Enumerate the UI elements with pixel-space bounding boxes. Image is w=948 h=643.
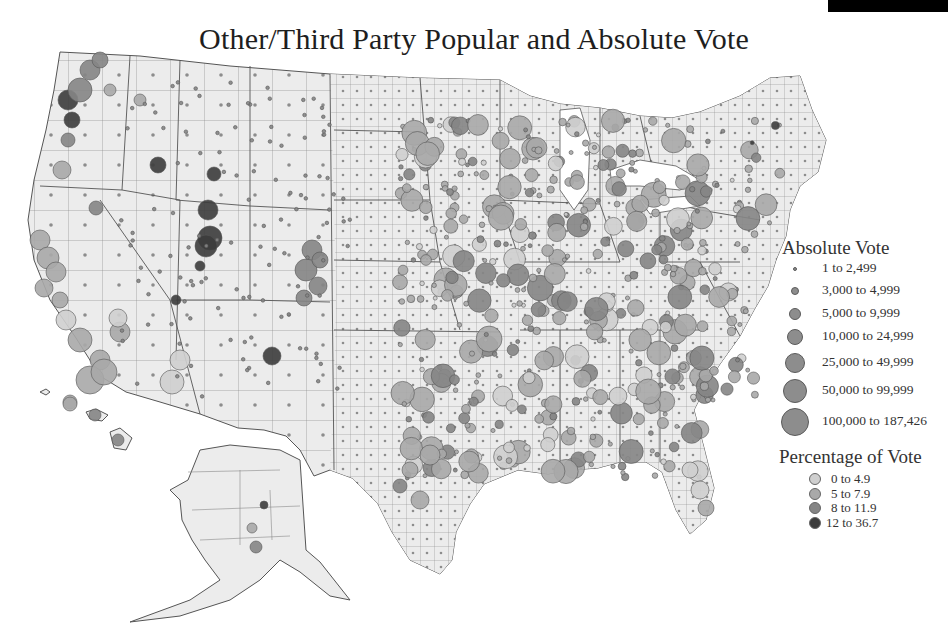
size-circle-icon — [785, 353, 805, 373]
absolute-vote-legend-title: Absolute Vote — [782, 237, 890, 259]
absolute-vote-legend-label: 10,000 to 24,999 — [822, 328, 914, 344]
absolute-vote-legend-label: 5,000 to 9,999 — [822, 305, 900, 321]
size-circle-icon — [783, 379, 807, 403]
absolute-vote-legend-label: 100,000 to 187,426 — [822, 413, 927, 429]
percentage-vote-legend-item: 8 to 11.9 — [779, 501, 922, 516]
absolute-vote-legend-label: 25,000 to 49,999 — [822, 354, 914, 370]
size-circle-icon — [787, 329, 803, 345]
absolute-vote-legend-item: 1 to 2,499 — [782, 259, 890, 279]
size-circle-icon — [789, 308, 801, 320]
percentage-vote-legend: Percentage of Vote 0 to 4.95 to 7.98 to … — [779, 446, 922, 530]
absolute-vote-legend-label: 50,000 to 99,999 — [822, 382, 914, 398]
percentage-vote-legend-label: 12 to 36.7 — [826, 515, 878, 531]
percentage-vote-legend-item: 0 to 4.9 — [779, 472, 922, 487]
color-circle-icon — [809, 502, 821, 514]
color-circle-icon — [809, 473, 821, 485]
size-circle-icon — [793, 267, 797, 271]
color-circle-icon — [809, 517, 821, 529]
map-title: Other/Third Party Popular and Absolute V… — [0, 22, 948, 56]
absolute-vote-legend-item: 25,000 to 49,999 — [782, 349, 890, 376]
absolute-vote-legend-item: 100,000 to 187,426 — [782, 405, 890, 439]
absolute-vote-legend-item: 3,000 to 4,999 — [782, 279, 890, 302]
absolute-vote-legend: Absolute Vote 1 to 2,4993,000 to 4,9995,… — [782, 237, 890, 439]
color-circle-icon — [809, 488, 821, 500]
absolute-vote-legend-item: 5,000 to 9,999 — [782, 302, 890, 325]
size-circle-icon — [791, 287, 799, 295]
percentage-vote-legend-item: 12 to 36.7 — [779, 516, 922, 531]
absolute-vote-legend-item: 50,000 to 99,999 — [782, 376, 890, 405]
absolute-vote-legend-label: 1 to 2,499 — [822, 260, 876, 276]
percentage-vote-legend-title: Percentage of Vote — [779, 446, 922, 468]
percentage-vote-legend-item: 5 to 7.9 — [779, 487, 922, 502]
absolute-vote-legend-item: 10,000 to 24,999 — [782, 325, 890, 349]
size-circle-icon — [781, 408, 809, 436]
absolute-vote-legend-label: 3,000 to 4,999 — [822, 282, 900, 298]
